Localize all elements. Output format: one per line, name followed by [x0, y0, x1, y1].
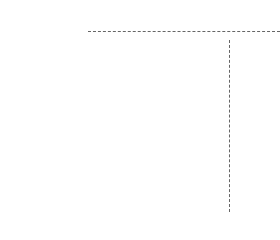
horizontal-divider	[88, 31, 280, 32]
vertical-divider	[229, 40, 230, 212]
